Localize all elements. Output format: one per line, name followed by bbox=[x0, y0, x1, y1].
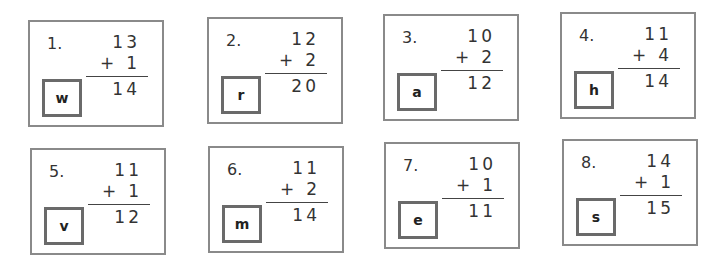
letter-box: h bbox=[574, 71, 614, 109]
sum-line bbox=[265, 73, 327, 74]
problem-card: 4. 11 +4 14 h bbox=[560, 12, 696, 119]
addend: 1 bbox=[482, 175, 496, 196]
addition-problem: 11 +4 14 bbox=[632, 24, 672, 92]
sum-line bbox=[86, 76, 148, 77]
top-number: 14 bbox=[634, 151, 674, 172]
problem-number: 5. bbox=[49, 162, 64, 181]
addition-problem: 11 +1 12 bbox=[102, 160, 142, 228]
problem-number: 1. bbox=[47, 34, 62, 53]
problem-card: 5. 11 +1 12 v bbox=[30, 148, 166, 255]
problem-number: 4. bbox=[579, 26, 594, 45]
answer: 20 bbox=[279, 76, 319, 97]
addend: 2 bbox=[306, 179, 320, 200]
addend: 1 bbox=[126, 53, 140, 74]
plus-sign: + bbox=[280, 179, 297, 200]
letter-box: v bbox=[44, 207, 84, 245]
problem-number: 6. bbox=[227, 160, 242, 179]
answer: 12 bbox=[102, 207, 142, 228]
problem-card: 1. 13 +1 14 w bbox=[28, 20, 164, 127]
addition-problem: 11 +2 14 bbox=[280, 158, 320, 226]
sum-line bbox=[266, 202, 328, 203]
plus-sign: + bbox=[456, 175, 473, 196]
top-number: 10 bbox=[455, 26, 495, 47]
problem-number: 3. bbox=[402, 28, 417, 47]
plus-sign: + bbox=[279, 50, 296, 71]
addition-problem: 14 +1 15 bbox=[634, 151, 674, 219]
problem-number: 7. bbox=[403, 156, 418, 175]
answer: 12 bbox=[455, 73, 495, 94]
addend: 2 bbox=[481, 47, 495, 68]
addition-problem: 10 +2 12 bbox=[455, 26, 495, 94]
plus-sign: + bbox=[632, 45, 649, 66]
addend: 1 bbox=[128, 181, 142, 202]
problem-card: 8. 14 +1 15 s bbox=[562, 139, 698, 246]
addition-problem: 13 +1 14 bbox=[100, 32, 140, 100]
problem-number: 2. bbox=[226, 31, 241, 50]
sum-line bbox=[442, 198, 504, 199]
letter-box: a bbox=[397, 73, 437, 111]
addition-problem: 10 +1 11 bbox=[456, 154, 496, 222]
top-number: 11 bbox=[102, 160, 142, 181]
top-number: 10 bbox=[456, 154, 496, 175]
letter-box: m bbox=[222, 205, 262, 243]
answer: 14 bbox=[280, 205, 320, 226]
top-number: 11 bbox=[632, 24, 672, 45]
answer: 14 bbox=[632, 71, 672, 92]
addend: 4 bbox=[658, 45, 672, 66]
plus-sign: + bbox=[102, 181, 119, 202]
letter-box: s bbox=[576, 198, 616, 236]
letter-box: r bbox=[221, 76, 261, 114]
plus-sign: + bbox=[634, 172, 651, 193]
addend: 1 bbox=[660, 172, 674, 193]
answer: 14 bbox=[100, 79, 140, 100]
sum-line bbox=[620, 195, 682, 196]
top-number: 13 bbox=[100, 32, 140, 53]
sum-line bbox=[618, 68, 680, 69]
sum-line bbox=[88, 204, 150, 205]
letter-box: e bbox=[398, 201, 438, 239]
plus-sign: + bbox=[455, 47, 472, 68]
answer: 15 bbox=[634, 198, 674, 219]
plus-sign: + bbox=[100, 53, 117, 74]
problem-number: 8. bbox=[581, 153, 596, 172]
addend: 2 bbox=[305, 50, 319, 71]
problem-card: 2. 12 +2 20 r bbox=[207, 17, 343, 124]
problem-card: 6. 11 +2 14 m bbox=[208, 146, 344, 253]
letter-box: w bbox=[42, 79, 82, 117]
top-number: 11 bbox=[280, 158, 320, 179]
top-number: 12 bbox=[279, 29, 319, 50]
addition-problem: 12 +2 20 bbox=[279, 29, 319, 97]
sum-line bbox=[441, 70, 503, 71]
problem-card: 3. 10 +2 12 a bbox=[383, 14, 519, 121]
problem-card: 7. 10 +1 11 e bbox=[384, 142, 520, 249]
answer: 11 bbox=[456, 201, 496, 222]
